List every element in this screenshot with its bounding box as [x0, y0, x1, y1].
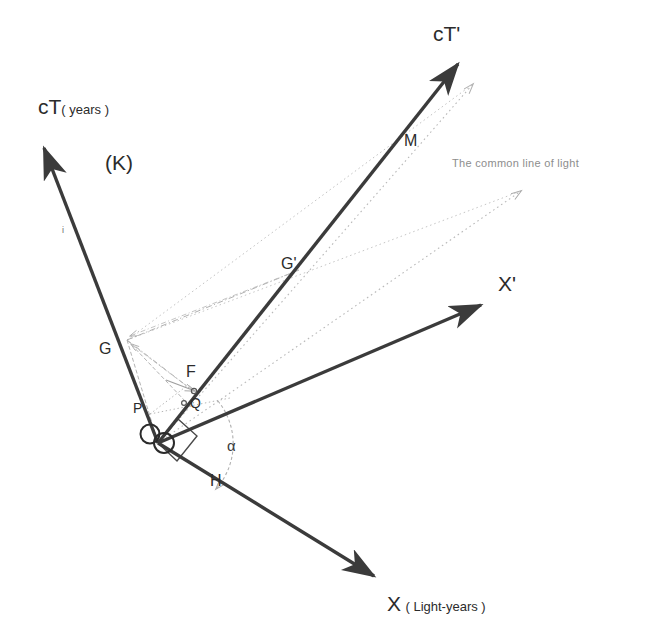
axis-label-ct-sub: ( years ) — [61, 102, 109, 117]
axis-x-prime[interactable] — [158, 305, 481, 443]
light-ray-from-G-lower — [127, 191, 521, 340]
point-label-G-prime: G' — [281, 256, 297, 272]
axis-label-ct: cT( years ) — [38, 95, 109, 119]
annotation-common-line-of-light: The common line of light — [452, 158, 579, 169]
light-ray-lines — [127, 84, 521, 443]
light-ray-from-G-upper — [127, 84, 473, 340]
marker-origin-O1 — [141, 425, 160, 444]
point-label-M: M — [404, 133, 417, 149]
axis-label-x-main: X — [387, 592, 401, 615]
axis-ct[interactable] — [44, 148, 158, 443]
axis-label-x-prime: X' — [498, 272, 516, 296]
point-label-F: F — [186, 364, 196, 380]
line-fan-G-1 — [130, 270, 299, 336]
light-ray-upper — [158, 84, 473, 443]
point-label-H: H — [210, 473, 222, 489]
light-ray-lower — [158, 191, 521, 443]
frame-label-k: (K) — [105, 152, 133, 173]
axis-label-x: X ( Light-years ) — [387, 592, 486, 616]
line-G-to-Gprime — [127, 270, 299, 340]
axis-label-ct-prime-main: cT' — [433, 22, 460, 45]
point-label-Q: Q — [190, 396, 201, 410]
point-label-P: P — [133, 401, 142, 415]
axis-tick-label-i: i — [62, 226, 64, 235]
axis-label-x-prime-main: X' — [498, 272, 516, 295]
axis-label-ct-prime: cT' — [433, 22, 460, 46]
marker-Q — [182, 401, 187, 406]
axis-x[interactable] — [158, 443, 374, 576]
angle-label-alpha: α — [227, 438, 236, 453]
axis-ct-prime[interactable] — [158, 64, 458, 443]
diagram-canvas: cT( years ) i (K) cT' X' X ( Light-years… — [0, 0, 657, 631]
axis-label-x-sub: ( Light-years ) — [405, 599, 485, 614]
axis-label-ct-main: cT — [38, 95, 61, 118]
point-label-G: G — [99, 341, 111, 357]
